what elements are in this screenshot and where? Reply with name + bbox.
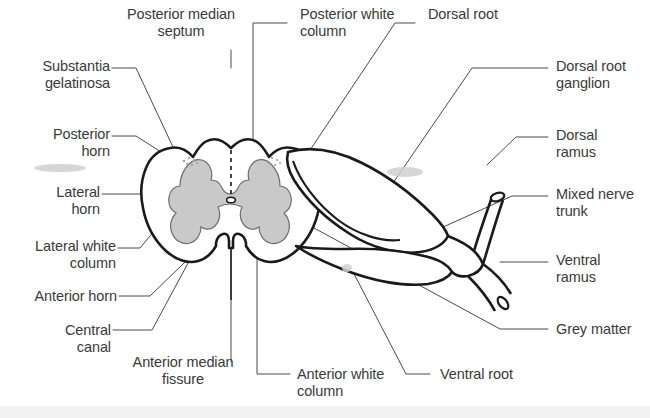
label-ventral-ramus: Ventral ramus <box>556 252 650 286</box>
ventral-root-band <box>296 246 452 285</box>
label-posterior-horn: Posterior horn <box>0 126 110 160</box>
label-lateral-white-column: Lateral white column <box>0 238 116 272</box>
label-dorsal-ramus: Dorsal ramus <box>556 127 650 161</box>
label-posterior-median-septum: Posterior median septum <box>111 6 251 40</box>
label-mixed-nerve-trunk: Mixed nerve trunk <box>556 186 650 220</box>
label-substantia-gelatinosa: Substantia gelatinosa <box>0 58 110 92</box>
central-canal-opening <box>227 197 236 203</box>
spinal-cord-diagram: Posterior median septum Posterior white … <box>0 0 650 418</box>
ventral-ramus-cut-end <box>496 295 511 311</box>
label-dorsal-root-ganglion: Dorsal root ganglion <box>556 58 650 92</box>
dorsal-root-ganglion-body <box>287 149 448 252</box>
label-central-canal: Central canal <box>0 322 111 356</box>
label-ventral-root: Ventral root <box>440 366 560 383</box>
leader-dorsal-root-ganglion <box>380 68 548 202</box>
scan-bottom-band <box>0 406 650 418</box>
label-lateral-horn: Lateral horn <box>0 184 100 218</box>
label-anterior-white-column: Anterior white column <box>297 366 417 400</box>
leader-dorsal-ramus <box>487 137 548 165</box>
label-anterior-horn: Anterior horn <box>0 288 117 305</box>
label-anterior-median-fissure: Anterior median fissure <box>119 354 247 388</box>
label-grey-matter: Grey matter <box>556 321 650 338</box>
label-dorsal-root: Dorsal root <box>428 6 548 23</box>
label-posterior-white-column: Posterior white column <box>300 6 420 40</box>
